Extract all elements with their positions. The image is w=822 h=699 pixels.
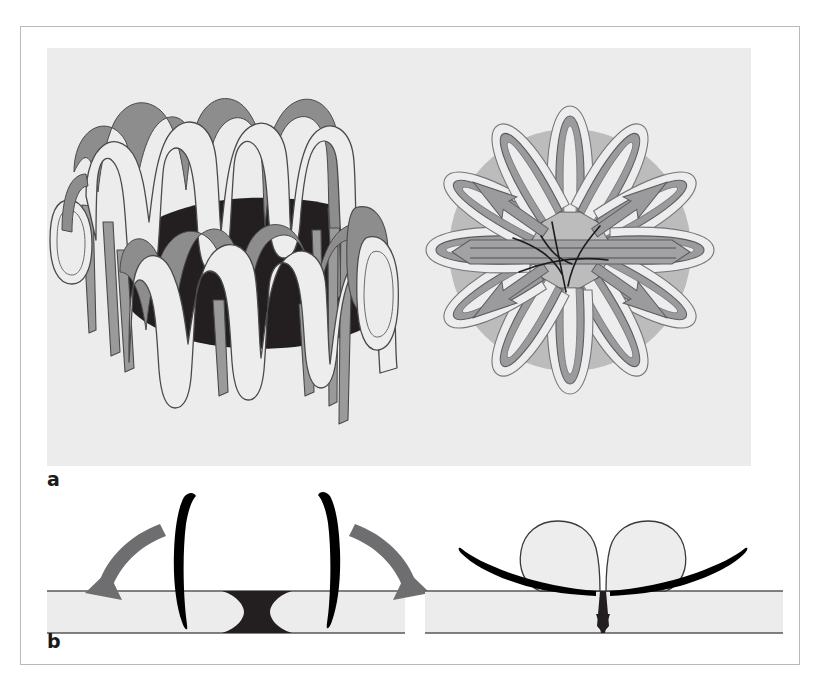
panel-a-background [47,48,751,466]
figure-root: a b [0,0,822,699]
panel-label-b: b [47,632,61,651]
panel-label-a: a [47,470,60,489]
